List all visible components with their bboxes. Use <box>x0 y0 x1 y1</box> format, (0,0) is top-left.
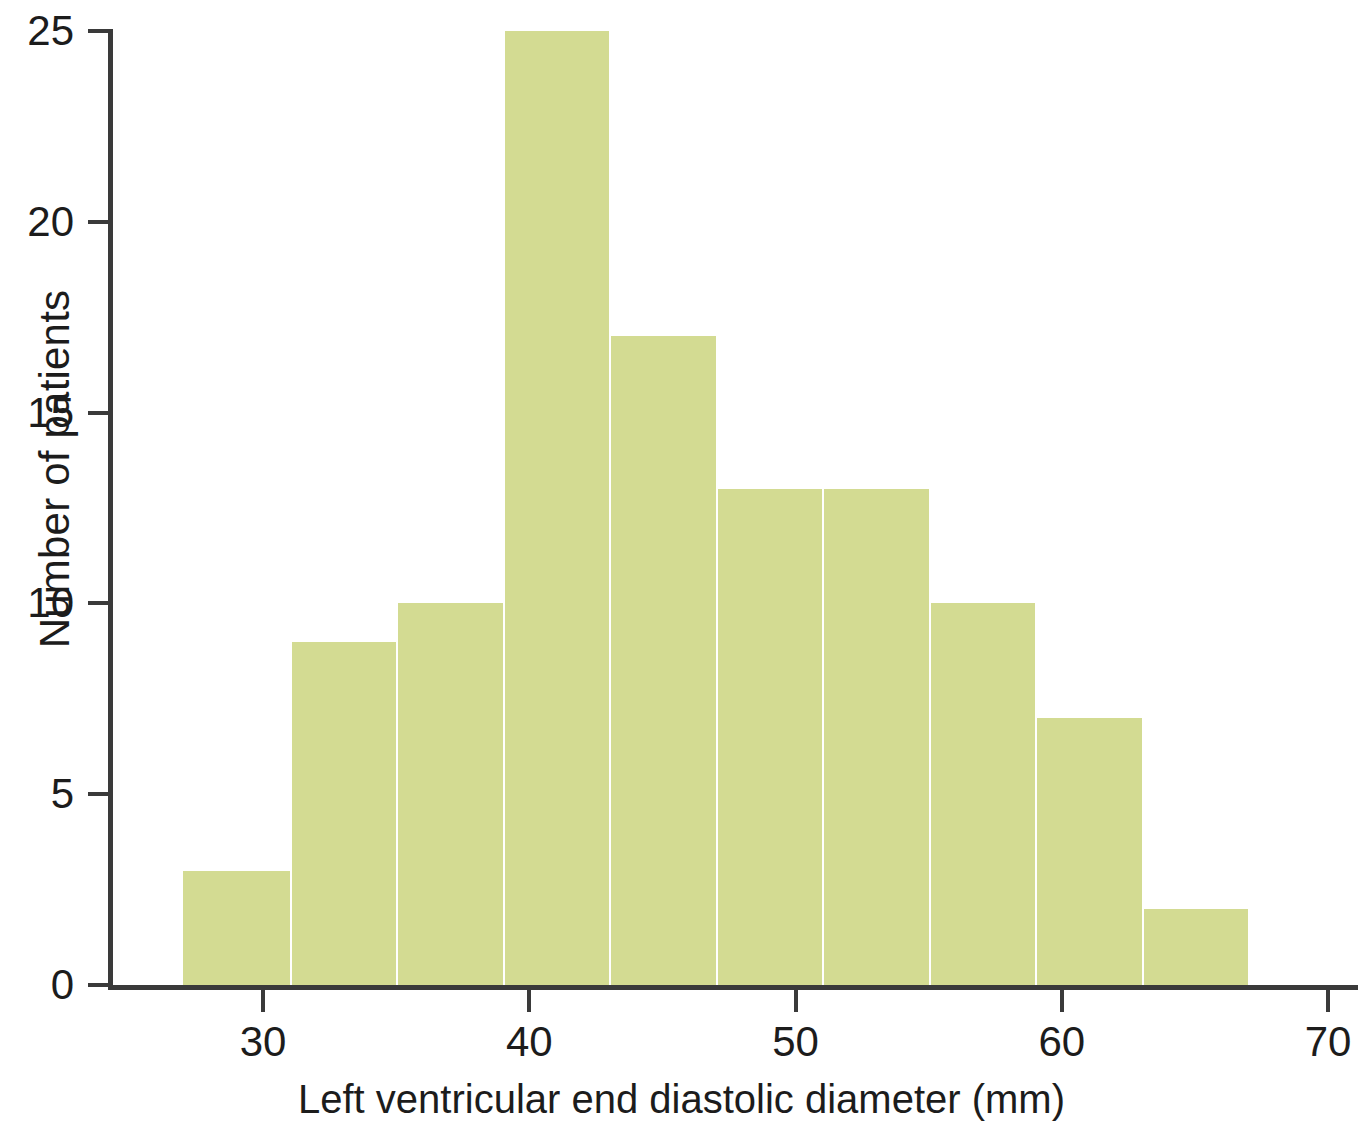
x-tick-label: 70 <box>1268 1018 1363 1066</box>
histogram-bar <box>290 642 397 985</box>
histogram-bar <box>1142 909 1249 985</box>
x-tick-mark <box>261 990 265 1012</box>
histogram-bar <box>1035 718 1142 985</box>
histogram-bar <box>503 31 610 985</box>
histogram-bar <box>929 603 1036 985</box>
histogram-bar <box>396 603 503 985</box>
histogram-bar <box>822 489 929 985</box>
x-axis-title: Left ventricular end diastolic diameter … <box>0 1077 1363 1122</box>
x-tick-label: 60 <box>1002 1018 1122 1066</box>
x-tick-mark <box>527 990 531 1012</box>
x-tick-mark <box>1060 990 1064 1012</box>
x-tick-label: 50 <box>736 1018 856 1066</box>
histogram-bar <box>609 336 716 985</box>
x-tick-label: 30 <box>203 1018 323 1066</box>
x-tick-mark <box>1326 990 1330 1012</box>
x-axis-line <box>108 985 1358 990</box>
histogram-bar <box>183 871 290 985</box>
x-tick-label: 40 <box>469 1018 589 1066</box>
x-tick-mark <box>794 990 798 1012</box>
histogram-bar <box>716 489 823 985</box>
